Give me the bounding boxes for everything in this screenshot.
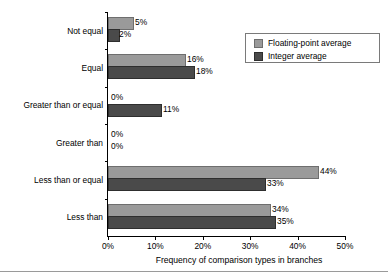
legend-label: Integer average	[268, 51, 327, 61]
x-tick-label: 10%	[147, 241, 164, 252]
chart-legend: Floating-point average Integer average	[245, 33, 380, 63]
bar-value-integer: 35%	[277, 216, 294, 227]
x-tick	[203, 236, 204, 240]
bar-value-integer: 18%	[196, 66, 213, 77]
x-tick-label: 30%	[242, 241, 259, 252]
bar-group: 44% 33%	[108, 161, 345, 198]
x-axis-title-text: Frequency of comparison types in branche…	[66, 255, 323, 265]
bar-value-integer: 0%	[111, 141, 123, 152]
category-row-less-than: Less than 34% 35%	[108, 199, 345, 236]
legend-swatch-icon	[254, 39, 263, 48]
bar-chart: Not equal 5% 2% Equal 16% 18% Greater th…	[0, 0, 388, 278]
x-axis-line	[107, 236, 346, 237]
legend-item-floating-point-average: Floating-point average	[254, 37, 379, 49]
x-tick-label: 40%	[289, 241, 306, 252]
x-tick-label: 20%	[194, 241, 211, 252]
category-label: Equal	[82, 63, 103, 73]
x-tick	[298, 236, 299, 240]
x-tick-label: 50%	[337, 241, 354, 252]
bar-value-floating-point: 34%	[272, 204, 289, 215]
category-row-less-than-or-equal: Less than or equal 44% 33%	[108, 161, 345, 198]
category-label: Greater than or equal	[23, 100, 103, 110]
bar-value-integer: 2%	[119, 29, 131, 40]
x-tick	[250, 236, 251, 240]
bar-integer	[108, 29, 120, 42]
bar-value-floating-point: 0%	[111, 129, 123, 140]
bar-group: 34% 35%	[108, 199, 345, 236]
bar-value-floating-point: 5%	[135, 17, 147, 28]
bar-integer	[108, 178, 266, 191]
bar-value-floating-point: 44%	[320, 166, 337, 177]
x-tick	[155, 236, 156, 240]
bar-group: 0% 0%	[108, 124, 345, 161]
bar-value-integer: 33%	[267, 178, 284, 189]
bar-integer	[108, 104, 162, 117]
bar-integer	[108, 66, 195, 79]
category-row-greater-than-or-equal: Greater than or equal 0% 11%	[108, 87, 345, 124]
bottom-divider	[0, 271, 388, 272]
bar-value-floating-point: 0%	[111, 92, 123, 103]
bar-value-integer: 11%	[163, 104, 179, 115]
category-label: Not equal	[67, 26, 103, 36]
x-tick-label: 0%	[102, 241, 114, 252]
legend-label: Floating-point average	[268, 38, 351, 48]
category-label: Less than or equal	[34, 175, 103, 185]
legend-swatch-icon	[254, 52, 263, 61]
x-axis-title: Frequency of comparison types in branche…	[0, 255, 388, 266]
bar-value-floating-point: 16%	[187, 54, 204, 65]
legend-item-integer-average: Integer average	[254, 50, 379, 62]
x-tick	[345, 236, 346, 240]
category-label: Less than	[67, 212, 103, 222]
category-label: Greater than	[56, 138, 103, 148]
x-tick	[108, 236, 109, 240]
category-row-greater-than: Greater than 0% 0%	[108, 124, 345, 161]
bar-integer	[108, 216, 276, 229]
bar-group: 0% 11%	[108, 87, 345, 124]
